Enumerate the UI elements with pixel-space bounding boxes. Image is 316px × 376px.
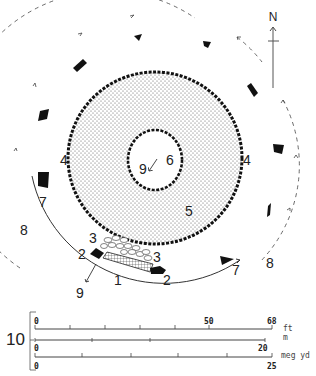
north-label: N: [269, 10, 278, 24]
svg-text:m: m: [283, 333, 288, 342]
label-7-east: 7: [232, 262, 240, 278]
label-8-west: 8: [20, 222, 28, 238]
svg-text:25: 25: [267, 362, 277, 371]
label-2-west: 2: [78, 246, 86, 262]
label-10: 10: [6, 330, 25, 349]
flanker-stone-west: [90, 248, 104, 259]
ring-cairn: [68, 72, 242, 244]
stone: [38, 109, 49, 121]
label-4-west: 4: [60, 152, 68, 168]
label-7-west: 7: [39, 194, 47, 210]
label-3-east: 3: [153, 249, 161, 265]
label-1: 1: [114, 272, 122, 288]
scale-bars: 10 0 50 68 ft 0 20 m 0 25: [6, 312, 310, 371]
recumbent-stone: [103, 252, 153, 272]
stone: [73, 59, 87, 72]
svg-text:68: 68: [267, 317, 277, 326]
svg-text:0: 0: [34, 362, 39, 371]
svg-text:20: 20: [258, 344, 268, 353]
svg-text:0: 0: [34, 344, 39, 353]
label-9-outer: 9: [76, 285, 84, 301]
arrow-9-inner: [149, 159, 157, 171]
label-4-east: 4: [243, 152, 251, 168]
arrow-9-outer: [86, 264, 96, 282]
site-plan-diagram: N 1 2 2 3 3 4 4 5 6 7 7 8 8 9 9 10 0 50 …: [0, 0, 316, 376]
svg-text:0: 0: [34, 317, 39, 326]
svg-text:meg yd: meg yd: [281, 351, 310, 360]
north-arrow: N: [268, 10, 279, 88]
label-2-east: 2: [163, 272, 171, 288]
stone: [247, 83, 258, 97]
stone: [134, 34, 142, 41]
stone: [203, 41, 211, 48]
stone: [273, 144, 284, 154]
svg-text:ft: ft: [283, 324, 293, 333]
svg-text:50: 50: [204, 317, 214, 326]
label-8-east: 8: [266, 255, 274, 271]
label-6: 6: [166, 152, 174, 168]
label-5: 5: [185, 203, 193, 219]
label-9-inner: 9: [139, 161, 147, 177]
stone: [267, 203, 271, 217]
stone: [38, 172, 49, 188]
label-3-west: 3: [89, 230, 97, 246]
